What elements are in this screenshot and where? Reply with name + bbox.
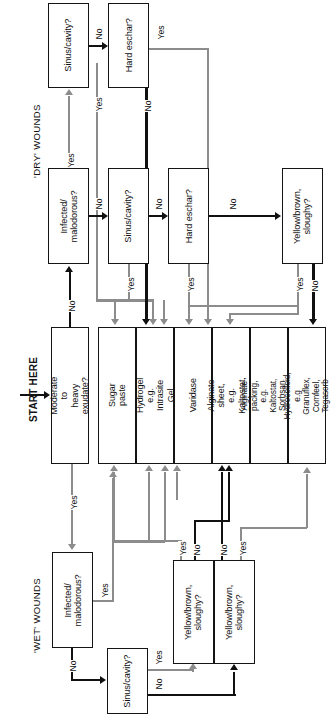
edge-wet-yellowL-no-h <box>194 520 230 522</box>
box-dry-infected-malodorous[interactable]: Infected/ malodorous? <box>48 168 89 264</box>
arrowhead-wet-riser-varidase <box>173 465 181 471</box>
treatment-box-hydrogel[interactable]: Hydrogel e.g. Intrasite Gel <box>136 327 174 464</box>
edge-wet-bus-h-lower <box>113 541 165 543</box>
arrowhead-dry-yellow-no <box>309 319 317 325</box>
box-label: Infected/ malodorous? <box>62 574 83 626</box>
edge-label-dry-infected-yes: Yes <box>66 153 76 168</box>
arrowhead-dry-hardtop-yes <box>204 319 212 325</box>
arrowhead-wet-yellowR-no <box>218 465 226 471</box>
box-label: Moderate to heavy exudate? <box>49 376 91 414</box>
edge-dry-sinus-yes-v2 <box>114 299 116 320</box>
section-label-dry: 'DRY' WOUNDS <box>31 104 42 178</box>
treatment-box-sugar-paste[interactable]: Sugar paste <box>98 327 136 464</box>
box-moderate-heavy-exudate[interactable]: Moderate to heavy exudate? <box>51 327 89 464</box>
box-label: Sinus/cavity? <box>122 655 132 708</box>
box-label: Yellow/brown, sloughy? <box>224 584 245 639</box>
arrowhead-exudate-yes <box>68 544 76 550</box>
box-dry-hard-eschar[interactable]: Hard eschar? <box>168 168 209 264</box>
edge-label-dry-yellow-yes: Yes <box>295 277 305 292</box>
arrowhead-extra-riser-hydrogel <box>160 319 168 325</box>
box-label: Sinus/cavity? <box>63 19 73 72</box>
edge-label-dry-hardtop-yes: Yes <box>156 25 166 40</box>
box-label: Yellow/brown, sloughy? <box>183 584 204 639</box>
edge-label-dry-yellow-no: No <box>310 280 320 292</box>
edge-dry-sinustop-no <box>89 45 103 47</box>
arrowhead-dry-sinus-yes <box>111 319 119 325</box>
box-wet-yellow-brown-sloughy-left[interactable]: Yellow/brown, sloughy? <box>173 560 214 664</box>
box-label: Infected/ malodorous? <box>58 190 79 242</box>
edge-wet-infected-no-h <box>71 679 101 681</box>
edge-dry-sinustop-yes-v2 <box>152 299 154 320</box>
edge-extra-riser-hydrogel <box>163 300 165 320</box>
edge-wet-bus-riser-1 <box>113 472 115 512</box>
arrowhead-wet-yellowR-yes <box>303 467 311 473</box>
treatment-box-hydrocolloid[interactable]: Hydrocolloid, e.g Granuflex, Comfeel, Te… <box>288 327 326 464</box>
edge-label-dry-sinustop-yes: Yes <box>94 97 104 112</box>
edge-top-bus-2-drop <box>297 305 299 314</box>
edge-label-dry-sinustop-no: No <box>94 28 104 40</box>
arrowhead-dry-hardtop-no <box>142 319 150 325</box>
treatment-label: Hydrocolloid, e.g Granuflex, Comfeel, Te… <box>283 372 331 419</box>
box-dry-yellow-brown-sloughy[interactable]: Yellow/brown, sloughy? <box>282 168 323 264</box>
arrowhead-wet-infected-no <box>100 676 106 684</box>
edge-label-wet-infected-yes: Yes <box>100 583 110 598</box>
edge-label-wet-yellowL-no: No <box>192 544 202 556</box>
edge-label-dry-hard-yes: Yes <box>186 277 196 292</box>
edge-label-wet-yellowL-yes: Yes <box>178 541 188 556</box>
arrowhead-dry-yellow-yes <box>226 319 234 325</box>
edge-wet-yellowL-no-v2 <box>228 472 230 521</box>
edge-wet-yellowR-yes-h <box>240 527 307 529</box>
treatment-label: Hydrogel e.g. Intrasite Gel <box>135 378 176 414</box>
edge-dry-hard-yes-v1 <box>188 264 190 320</box>
edge-dry-sinus-no <box>149 215 163 217</box>
arrowhead-dry-hard-yes <box>185 319 193 325</box>
edge-label-dry-infected-no: No <box>94 198 104 210</box>
edge-label-dry-hard-no: No <box>228 198 238 210</box>
edge-dry-infected-no <box>89 215 103 217</box>
edge-wet-bus-riser-2 <box>148 472 150 542</box>
arrowhead-wet-bus-riser-2 <box>145 465 153 471</box>
arrowhead-exudate-no <box>65 266 73 272</box>
edge-label-wet-sinus-no: No <box>154 678 164 690</box>
edge-top-bus-2 <box>188 305 298 307</box>
edge-label-dry-hardtop-no: No <box>143 100 153 112</box>
box-label: Hard eschar? <box>123 19 133 73</box>
box-wet-infected-malodorous[interactable]: Infected/ malodorous? <box>52 552 93 648</box>
flowchart-canvas: 'DRY' WOUNDS 'WET' WOUNDS START HERE Sin… <box>0 0 334 716</box>
treatment-label: Sugar paste <box>107 378 127 414</box>
arrowhead-wet-infected-yes <box>109 471 117 477</box>
arrowhead-dry-infected-yes <box>65 89 73 95</box>
box-wet-sinus-cavity[interactable]: Sinus/cavity? <box>107 648 148 714</box>
edge-label-dry-sinus-no: No <box>154 198 164 210</box>
box-dry-sinus-cavity-top[interactable]: Sinus/cavity? <box>48 3 89 88</box>
arrowhead-wet-sinus-no <box>230 664 238 670</box>
box-label: Yellow/brown, sloughy? <box>292 188 313 243</box>
edge-dry-yellow-yes-h <box>229 313 299 315</box>
box-label: Hard eschar? <box>183 189 193 243</box>
edge-wet-sinus-yes-v <box>192 671 194 672</box>
edge-wet-sinus-no-v <box>233 672 235 696</box>
arrowhead-dry-hard-no <box>275 212 281 220</box>
edge-dry-hard-no-h <box>209 215 275 217</box>
edge-wet-infected-yes-h <box>93 600 113 602</box>
edge-wet-sinus-no-h <box>148 694 236 696</box>
arrowhead-wet-bus-riser-3 <box>161 465 169 471</box>
edge-label-exudate-yes: Yes <box>69 495 79 510</box>
box-dry-sinus-cavity[interactable]: Sinus/cavity? <box>108 168 149 264</box>
treatment-label: Varidase <box>188 378 198 412</box>
edge-dry-yellow-no-v <box>312 264 315 320</box>
edge-label-wet-yellowR-no: No <box>219 544 229 556</box>
arrowhead-wet-bus-riser-1 <box>110 465 118 471</box>
edge-label-wet-sinus-yes: Yes <box>154 650 164 665</box>
edge-label-exudate-no: No <box>67 300 77 312</box>
edge-wet-sinus-yes-h <box>148 669 194 671</box>
edge-wet-riser-varidase <box>176 472 178 500</box>
start-here-label: START HERE <box>28 357 39 422</box>
box-label: Sinus/cavity? <box>123 190 133 243</box>
edge-label-wet-infected-no: No <box>68 660 78 672</box>
box-dry-hard-eschar-top[interactable]: Hard eschar? <box>108 3 149 88</box>
edge-wet-yellowR-yes-v2 <box>306 474 308 528</box>
arrowhead-dry-sinustop-yes <box>149 319 157 325</box>
edge-label-dry-sinus-yes: Yes <box>126 277 136 292</box>
box-wet-yellow-brown-sloughy-right[interactable]: Yellow/brown, sloughy? <box>214 560 255 664</box>
